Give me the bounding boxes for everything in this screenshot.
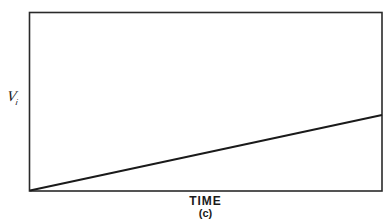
chart-figure: Vi TIME (c) bbox=[0, 0, 387, 222]
plot-area bbox=[0, 0, 387, 222]
figure-caption: (c) bbox=[0, 207, 387, 219]
plot-frame bbox=[30, 13, 383, 192]
data-line-vi bbox=[30, 115, 382, 191]
y-axis-label: Vi bbox=[6, 88, 20, 107]
x-axis-label: TIME bbox=[0, 194, 387, 208]
